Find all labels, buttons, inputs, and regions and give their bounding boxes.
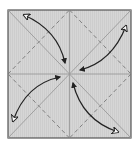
solid-creases <box>8 10 131 138</box>
origami-diagram <box>0 0 139 147</box>
